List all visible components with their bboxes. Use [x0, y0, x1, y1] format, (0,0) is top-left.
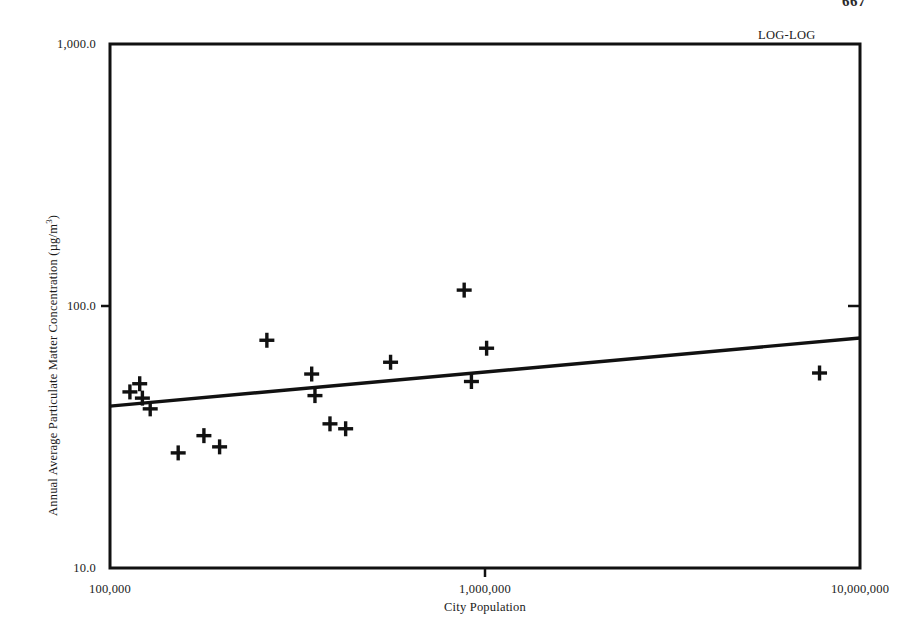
scatter-plot-canvas — [0, 0, 914, 641]
data-point-marker — [132, 376, 147, 391]
data-point-marker — [479, 341, 494, 356]
y-axis-title-superscript: 3 — [44, 219, 54, 224]
data-point-marker — [171, 445, 186, 460]
y-axis-tick-label: 10.0 — [73, 561, 96, 576]
data-point-marker — [259, 333, 274, 348]
y-axis-tick-label: 100.0 — [67, 299, 96, 314]
plot-frame — [110, 44, 860, 568]
x-axis-tick-label: 10,000,000 — [831, 582, 889, 597]
figure-container: 667 LOG-LOG 10.0100.01,000.0100,0001,000… — [0, 0, 914, 641]
y-axis-title-text: Annual Average Particulate Matter Concen… — [46, 224, 60, 516]
x-axis-tick-label: 1,000,000 — [459, 582, 511, 597]
data-point-marker — [212, 439, 227, 454]
data-point-marker — [338, 421, 353, 436]
y-axis-tick-label: 1,000.0 — [57, 37, 96, 52]
data-point-marker — [304, 367, 319, 382]
data-point-marker — [307, 388, 322, 403]
data-point-marker — [464, 374, 479, 389]
data-point-marker — [322, 416, 337, 431]
y-axis-title: Annual Average Particulate Matter Concen… — [44, 46, 61, 516]
data-point-marker — [383, 355, 398, 370]
x-axis-tick-label: 100,000 — [89, 582, 131, 597]
data-point-marker — [457, 283, 472, 298]
y-axis-title-tail: ) — [46, 215, 60, 219]
axes-box — [110, 44, 860, 568]
data-point-marker — [812, 365, 827, 380]
x-axis-title: City Population — [110, 600, 860, 615]
data-point-marker — [196, 428, 211, 443]
